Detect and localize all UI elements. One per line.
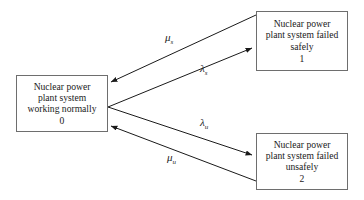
transition-subscript-lambda-u: u <box>205 123 209 131</box>
transition-arrow-mu-s <box>111 15 256 82</box>
state-box-failed-safely: Nuclear power plant system failed safely… <box>256 11 348 71</box>
state-safe-line1: Nuclear power <box>274 18 331 29</box>
transition-arrow-lambda-s <box>108 48 252 107</box>
transition-arrow-lambda-u <box>108 107 252 155</box>
state-unsafe-line2: plant system failed <box>266 150 338 161</box>
transition-label-mu-s: μs <box>165 31 173 46</box>
state-unsafe-line3: unsafely <box>286 161 319 172</box>
state-unsafe-number: 2 <box>300 173 305 184</box>
state-working-number: 0 <box>60 115 65 126</box>
transition-label-lambda-s: λs <box>200 62 208 77</box>
state-safe-line2: plant system failed <box>266 29 338 40</box>
state-working-line1: Nuclear power <box>34 81 91 92</box>
transition-label-mu-u: μu <box>167 151 176 166</box>
state-box-working-normally: Nuclear power plant system working norma… <box>16 75 108 132</box>
state-transition-diagram: Nuclear power plant system working norma… <box>0 0 364 200</box>
transition-arrow-mu-u <box>111 126 256 181</box>
transition-subscript-mu-s: s <box>171 38 174 46</box>
state-safe-line3: safely <box>291 41 314 52</box>
state-working-line3: working normally <box>27 103 96 114</box>
state-unsafe-line1: Nuclear power <box>274 139 331 150</box>
transition-subscript-mu-u: u <box>173 158 177 166</box>
transition-subscript-lambda-s: s <box>205 69 208 77</box>
state-working-line2: plant system <box>38 92 86 103</box>
transition-label-lambda-u: λu <box>200 116 208 131</box>
state-safe-number: 1 <box>300 53 305 64</box>
state-box-failed-unsafely: Nuclear power plant system failed unsafe… <box>256 133 348 190</box>
